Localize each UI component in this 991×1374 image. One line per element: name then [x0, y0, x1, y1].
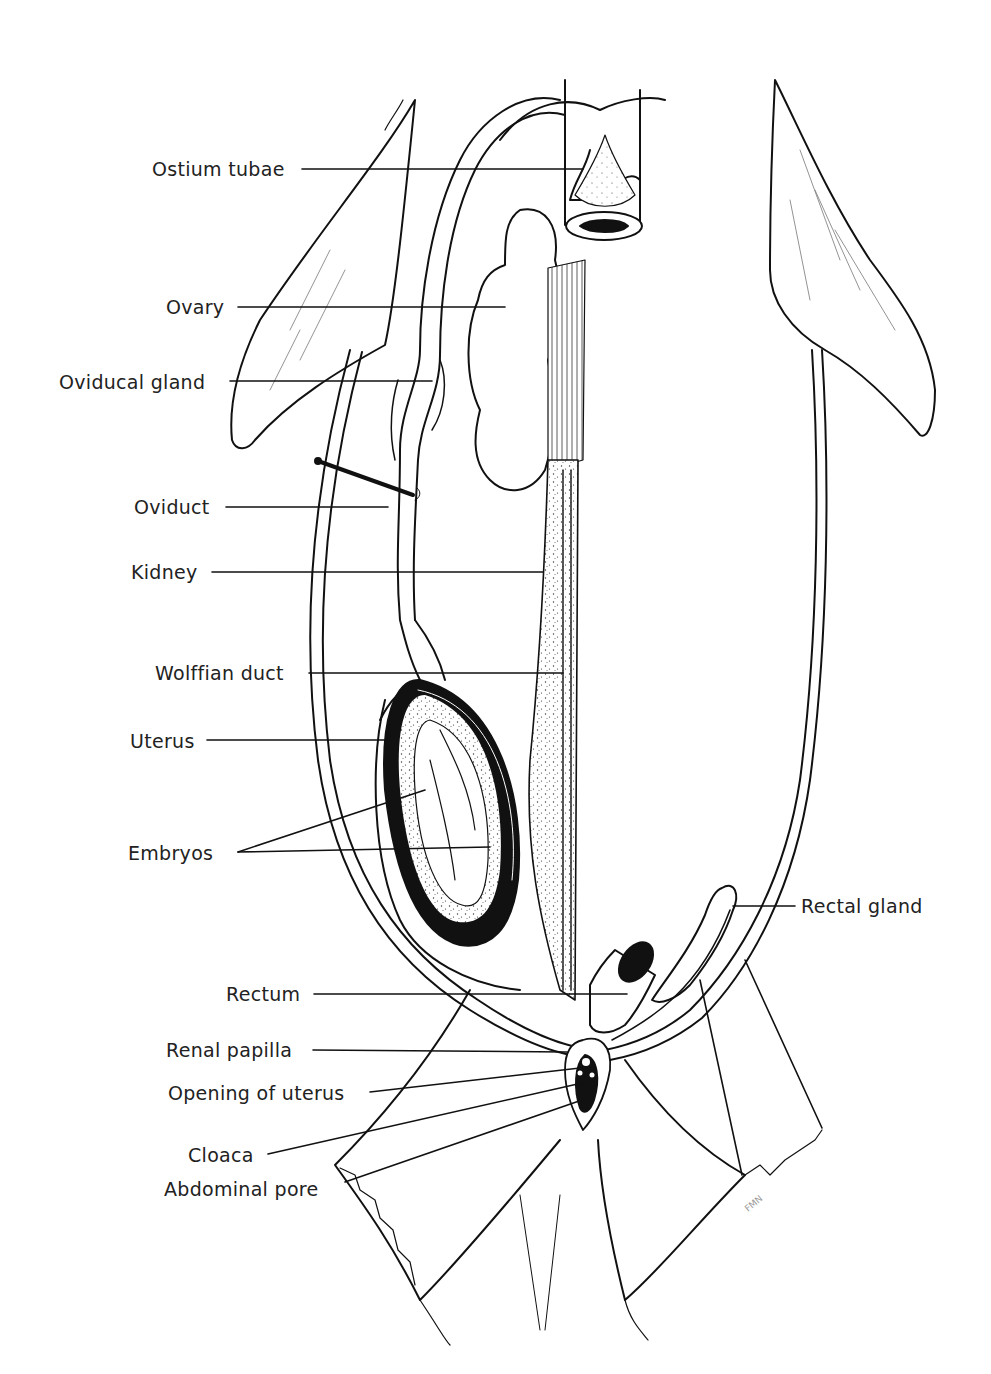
right-body-wall-flap: [770, 80, 935, 436]
mesovarium: [548, 260, 585, 470]
label-kidney: Kidney: [131, 561, 198, 583]
rectal-gland: [652, 886, 736, 1002]
label-embryos: Embryos: [128, 842, 213, 864]
ovary: [468, 209, 560, 490]
label-oviducal-gland: Oviducal gland: [59, 371, 205, 393]
anatomy-diagram: FMN Ostium tubae Ovary Oviducal gland Ov…: [0, 0, 991, 1374]
label-rectal-gland: Rectal gland: [801, 895, 923, 917]
left-body-wall-flap: [231, 100, 415, 448]
artist-signature: FMN: [743, 1193, 765, 1213]
cloaca: [565, 1039, 610, 1130]
label-cloaca: Cloaca: [188, 1144, 254, 1166]
label-oviduct: Oviduct: [134, 496, 210, 518]
label-ovary: Ovary: [166, 296, 224, 318]
pin: [315, 458, 420, 500]
label-renal-papilla: Renal papilla: [166, 1039, 292, 1061]
label-wolffian-duct: Wolffian duct: [155, 662, 284, 684]
label-ostium-tubae: Ostium tubae: [152, 158, 285, 180]
label-rectum: Rectum: [226, 983, 300, 1005]
pelvic-fins: [335, 960, 822, 1345]
uterus: [376, 680, 520, 990]
label-uterus: Uterus: [130, 730, 195, 752]
label-opening-of-uterus: Opening of uterus: [168, 1082, 345, 1104]
anatomy-drawing: FMN: [0, 0, 991, 1374]
label-abdominal-pore: Abdominal pore: [164, 1178, 319, 1200]
